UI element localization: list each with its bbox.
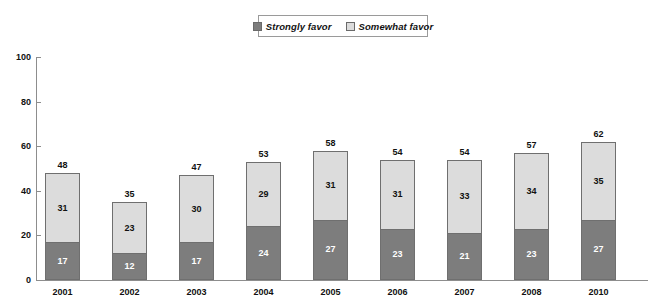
y-tick-mark bbox=[36, 280, 41, 281]
y-tick-label: 20 bbox=[0, 230, 31, 240]
bar-total-label: 35 bbox=[112, 189, 147, 199]
bar-segment-strongly-favor[interactable]: 17 bbox=[179, 242, 214, 280]
bar-group[interactable]: 3321 bbox=[447, 160, 482, 280]
bar-stack[interactable]: 3017 bbox=[179, 175, 214, 280]
bar-segment-strongly-favor[interactable]: 17 bbox=[45, 242, 80, 280]
bar-segment-somewhat-favor[interactable]: 30 bbox=[179, 175, 214, 242]
bar-stack[interactable]: 3127 bbox=[313, 151, 348, 280]
bar-total-label: 54 bbox=[380, 147, 415, 157]
bar-segment-strongly-favor[interactable]: 23 bbox=[380, 229, 415, 280]
bar-segment-strongly-favor[interactable]: 12 bbox=[112, 253, 147, 280]
bar-total-label: 57 bbox=[514, 140, 549, 150]
bar-total-label: 58 bbox=[313, 138, 348, 148]
bar-segment-somewhat-favor[interactable]: 31 bbox=[313, 151, 348, 220]
bar-group[interactable]: 3117 bbox=[45, 173, 80, 280]
plot-area: 020406080100 311748231235301747292453312… bbox=[0, 0, 653, 306]
bar-group[interactable]: 3017 bbox=[179, 175, 214, 280]
bar-total-label: 48 bbox=[45, 160, 80, 170]
y-tick-label: 0 bbox=[0, 275, 31, 285]
bar-group[interactable]: 2312 bbox=[112, 202, 147, 280]
bar-segment-strongly-favor[interactable]: 24 bbox=[246, 226, 281, 280]
bar-segment-somewhat-favor[interactable]: 29 bbox=[246, 162, 281, 227]
y-tick-label: 80 bbox=[0, 97, 31, 107]
bar-total-label: 47 bbox=[179, 162, 214, 172]
x-axis-label: 2010 bbox=[581, 287, 616, 297]
bar-stack[interactable]: 2312 bbox=[112, 202, 147, 280]
y-axis-line bbox=[36, 57, 37, 280]
bar-stack[interactable]: 3527 bbox=[581, 142, 616, 280]
x-axis-label: 2005 bbox=[313, 287, 348, 297]
x-axis-label: 2007 bbox=[447, 287, 482, 297]
bar-segment-somewhat-favor[interactable]: 33 bbox=[447, 160, 482, 234]
y-tick-label: 100 bbox=[0, 52, 31, 62]
bar-group[interactable]: 3423 bbox=[514, 153, 549, 280]
bar-group[interactable]: 3127 bbox=[313, 151, 348, 280]
bar-total-label: 62 bbox=[581, 129, 616, 139]
bar-segment-strongly-favor[interactable]: 27 bbox=[581, 220, 616, 280]
bar-segment-somewhat-favor[interactable]: 23 bbox=[112, 202, 147, 253]
y-tick-mark bbox=[36, 102, 41, 103]
x-axis-label: 2003 bbox=[179, 287, 214, 297]
x-axis-label: 2008 bbox=[514, 287, 549, 297]
stacked-bar-chart: Strongly favor Somewhat favor 0204060801… bbox=[0, 0, 653, 306]
x-axis-label: 2002 bbox=[112, 287, 147, 297]
bar-segment-strongly-favor[interactable]: 27 bbox=[313, 220, 348, 280]
y-tick-label: 40 bbox=[0, 186, 31, 196]
y-tick-mark bbox=[36, 57, 41, 58]
bar-group[interactable]: 3123 bbox=[380, 160, 415, 280]
bar-stack[interactable]: 2924 bbox=[246, 162, 281, 280]
bar-stack[interactable]: 3321 bbox=[447, 160, 482, 280]
bar-segment-somewhat-favor[interactable]: 31 bbox=[380, 160, 415, 229]
bar-group[interactable]: 3527 bbox=[581, 142, 616, 280]
bar-stack[interactable]: 3117 bbox=[45, 173, 80, 280]
x-axis-label: 2001 bbox=[45, 287, 80, 297]
bar-stack[interactable]: 3123 bbox=[380, 160, 415, 280]
bar-total-label: 53 bbox=[246, 149, 281, 159]
y-tick-mark bbox=[36, 191, 41, 192]
bar-segment-strongly-favor[interactable]: 21 bbox=[447, 233, 482, 280]
bar-total-label: 54 bbox=[447, 147, 482, 157]
x-axis-line bbox=[36, 280, 648, 281]
bar-segment-somewhat-favor[interactable]: 35 bbox=[581, 142, 616, 220]
bar-segment-somewhat-favor[interactable]: 31 bbox=[45, 173, 80, 242]
y-tick-mark bbox=[36, 235, 41, 236]
bar-segment-somewhat-favor[interactable]: 34 bbox=[514, 153, 549, 229]
x-axis-label: 2004 bbox=[246, 287, 281, 297]
y-tick-label: 60 bbox=[0, 141, 31, 151]
bar-segment-strongly-favor[interactable]: 23 bbox=[514, 229, 549, 280]
y-tick-mark bbox=[36, 146, 41, 147]
x-axis-label: 2006 bbox=[380, 287, 415, 297]
bar-stack[interactable]: 3423 bbox=[514, 153, 549, 280]
bar-group[interactable]: 2924 bbox=[246, 162, 281, 280]
